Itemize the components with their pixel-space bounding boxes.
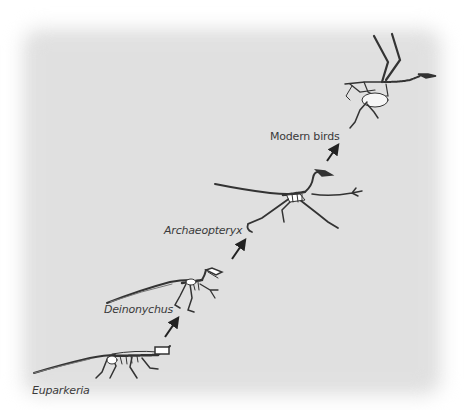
label-euparkeria: Euparkeria — [32, 384, 90, 397]
arrow-euparkeria-to-deinonychus-icon — [165, 321, 176, 337]
label-modern-birds: Modern birds — [270, 130, 339, 143]
label-archaeopteryx: Archaeopteryx — [164, 224, 242, 237]
archaeopteryx-skeleton-icon — [215, 170, 362, 232]
evolution-arrows — [165, 148, 336, 337]
euparkeria-skeleton-icon — [34, 346, 170, 378]
skeleton-illustration — [0, 0, 464, 410]
label-deinonychus: Deinonychus — [104, 303, 173, 316]
arrow-deinonychus-to-archaeopteryx-icon — [232, 243, 243, 259]
arrow-archaeopteryx-to-modern-birds-icon — [327, 148, 336, 161]
modern-bird-skeleton-icon — [345, 34, 436, 128]
